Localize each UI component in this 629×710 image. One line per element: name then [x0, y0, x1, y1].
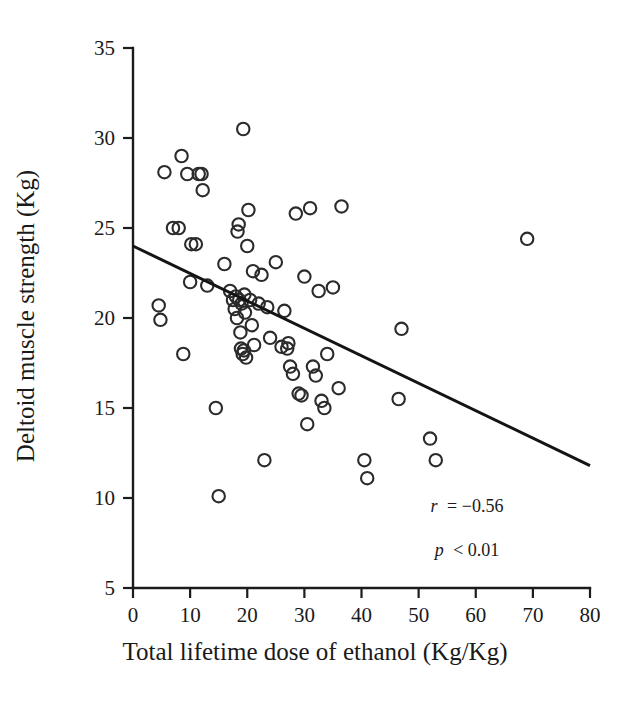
- correlation-symbol: r: [431, 496, 439, 516]
- x-axis-tick-label: 20: [237, 603, 258, 627]
- data-point: [218, 258, 230, 270]
- data-point: [327, 281, 339, 293]
- data-point: [212, 490, 224, 502]
- y-axis-title: Deltoid muscle strength (Kg): [12, 170, 40, 462]
- x-axis-tick-label: 70: [522, 603, 543, 627]
- data-point: [246, 319, 258, 331]
- data-point: [304, 202, 316, 214]
- data-point: [153, 299, 165, 311]
- data-point: [234, 326, 246, 338]
- pvalue-symbol: p: [433, 540, 444, 560]
- x-axis-tick-label: 50: [408, 603, 429, 627]
- data-point: [237, 123, 249, 135]
- data-point: [284, 360, 296, 372]
- y-axis-tick-label: 10: [94, 486, 115, 510]
- axes-group: [133, 48, 590, 588]
- data-point: [392, 393, 404, 405]
- data-point: [177, 348, 189, 360]
- data-point: [521, 233, 533, 245]
- data-point: [232, 218, 244, 230]
- regression-line: [133, 246, 590, 466]
- data-point: [430, 454, 442, 466]
- data-point: [210, 402, 222, 414]
- scatter-plot-figure: 510152025303501020304050607080 Total lif…: [0, 0, 629, 710]
- data-point: [264, 332, 276, 344]
- data-point: [158, 166, 170, 178]
- y-axis-tick-label: 35: [94, 36, 115, 60]
- data-point: [424, 432, 436, 444]
- data-point: [196, 184, 208, 196]
- data-point: [358, 454, 370, 466]
- data-point: [315, 395, 327, 407]
- y-axis-tick-label: 30: [94, 126, 115, 150]
- data-point: [184, 276, 196, 288]
- y-axis-tick-label: 25: [94, 216, 115, 240]
- data-points-group: [153, 123, 534, 503]
- data-point: [287, 368, 299, 380]
- data-point: [258, 454, 270, 466]
- data-point: [321, 348, 333, 360]
- data-point: [290, 207, 302, 219]
- x-axis-tick-label: 80: [580, 603, 601, 627]
- ticks-group: [123, 48, 590, 598]
- pvalue-value: < 0.01: [453, 540, 499, 560]
- data-point: [154, 314, 166, 326]
- data-point: [312, 285, 324, 297]
- data-point: [242, 204, 254, 216]
- data-point: [270, 256, 282, 268]
- regression-line-group: [133, 246, 590, 466]
- tick-labels-group: 510152025303501020304050607080: [94, 36, 601, 627]
- data-point: [395, 323, 407, 335]
- data-point: [248, 339, 260, 351]
- pvalue-annotation: p < 0.01: [433, 540, 500, 560]
- x-axis-tick-label: 30: [294, 603, 315, 627]
- x-axis-tick-label: 10: [180, 603, 201, 627]
- y-axis-tick-label: 15: [94, 396, 115, 420]
- x-axis-tick-label: 60: [465, 603, 486, 627]
- x-axis-tick-label: 40: [351, 603, 372, 627]
- x-axis-title: Total lifetime dose of ethanol (Kg/Kg): [123, 638, 508, 666]
- data-point: [241, 240, 253, 252]
- data-point: [361, 472, 373, 484]
- data-point: [301, 418, 313, 430]
- data-point: [318, 402, 330, 414]
- correlation-value: = −0.56: [447, 496, 503, 516]
- y-axis-tick-label: 20: [94, 306, 115, 330]
- plot-canvas: 510152025303501020304050607080 Total lif…: [0, 0, 629, 710]
- data-point: [175, 150, 187, 162]
- y-axis-tick-label: 5: [105, 576, 116, 600]
- data-point: [335, 200, 347, 212]
- correlation-annotation: r = −0.56: [431, 496, 504, 516]
- data-point: [298, 270, 310, 282]
- x-axis-tick-label: 0: [128, 603, 139, 627]
- data-point: [332, 382, 344, 394]
